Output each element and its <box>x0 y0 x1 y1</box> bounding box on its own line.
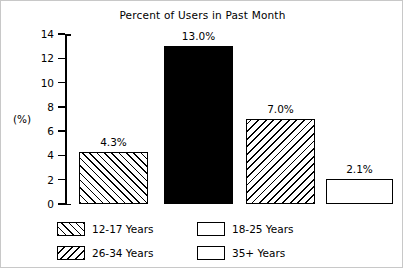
legend-item: 26-34 Years <box>57 246 197 260</box>
plot-area: 02468101214 (%) 4.3%13.0%7.0%2.1% <box>1 1 403 216</box>
y-tick-mark <box>58 203 65 205</box>
y-tick-label: 14 <box>21 29 54 40</box>
legend-item: 35+ Years <box>197 246 342 260</box>
bar-26-34-years <box>246 119 315 204</box>
bar-35-years <box>326 179 393 205</box>
legend-label: 18-25 Years <box>232 223 294 235</box>
legend-swatch <box>197 222 225 236</box>
bar-value-label: 7.0% <box>246 104 315 115</box>
bar-18-25-years <box>164 46 233 204</box>
legend-label: 26-34 Years <box>92 247 154 259</box>
bar-value-label: 4.3% <box>79 137 148 148</box>
bar-value-label: 2.1% <box>326 164 393 175</box>
y-tick-label: 6 <box>21 126 54 137</box>
y-tick-label: 10 <box>21 77 54 88</box>
y-axis-bottom-cap <box>65 204 71 206</box>
legend-swatch <box>57 222 85 236</box>
y-tick-label: 2 <box>21 174 54 185</box>
chart-legend: 12-17 Years18-25 Years26-34 Years35+ Yea… <box>57 222 357 260</box>
y-tick-mark <box>58 82 65 84</box>
legend-item: 18-25 Years <box>197 222 342 236</box>
chart-figure: Percent of Users in Past Month 024681012… <box>0 0 403 268</box>
legend-label: 12-17 Years <box>92 223 154 235</box>
y-axis-top-cap <box>65 34 71 36</box>
legend-swatch <box>197 246 225 260</box>
y-tick-label: 4 <box>21 150 54 161</box>
legend-label: 35+ Years <box>232 247 285 259</box>
y-tick-label: 8 <box>21 102 54 113</box>
y-tick-label: 12 <box>21 53 54 64</box>
y-tick-label: 0 <box>21 199 54 210</box>
y-axis-title: (%) <box>13 113 31 125</box>
y-tick-mark <box>58 106 65 108</box>
y-tick-mark <box>58 58 65 60</box>
bar-12-17-years <box>79 152 148 204</box>
y-tick-mark <box>58 33 65 35</box>
bar-value-label: 13.0% <box>164 31 233 42</box>
legend-swatch <box>57 246 85 260</box>
y-axis-line <box>65 34 67 205</box>
y-tick-mark <box>58 155 65 157</box>
y-tick-mark <box>58 130 65 132</box>
y-tick-mark <box>58 179 65 181</box>
legend-item: 12-17 Years <box>57 222 197 236</box>
